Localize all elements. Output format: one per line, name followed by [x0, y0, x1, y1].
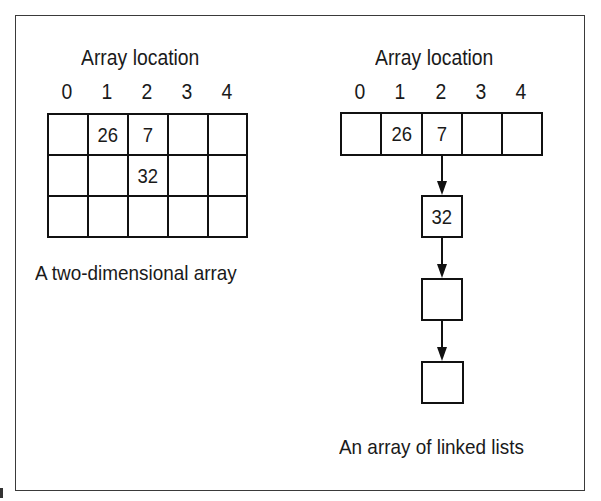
array-cell [461, 112, 503, 156]
grid-cell [47, 154, 89, 197]
right-caption: An array of linked lists [339, 435, 524, 459]
grid-cell [87, 154, 129, 197]
link-line [441, 237, 443, 266]
arrow-down-icon [437, 181, 447, 195]
left-caption: A two-dimensional array [35, 261, 237, 285]
left-index: 2 [129, 79, 164, 105]
grid-cell [87, 195, 129, 238]
left-index: 0 [49, 79, 84, 105]
edge-artifact [0, 488, 3, 498]
grid-cell [167, 195, 209, 238]
grid-cell [167, 154, 209, 197]
grid-cell [167, 113, 209, 156]
array-cell [340, 112, 382, 156]
left-index: 1 [89, 79, 124, 105]
link-line [441, 320, 443, 349]
right-title: Array location [375, 45, 493, 71]
left-index: 4 [209, 79, 244, 105]
right-index: 0 [342, 79, 377, 105]
grid-cell [207, 113, 248, 156]
right-index: 3 [463, 79, 498, 105]
grid-cell [207, 154, 248, 197]
array-cell: 26 [380, 112, 423, 156]
right-index: 1 [382, 79, 417, 105]
left-title: Array location [81, 45, 199, 71]
grid-cell [127, 195, 169, 238]
grid-cell [207, 195, 248, 238]
grid-cell: 7 [127, 113, 169, 156]
arrow-down-icon [437, 264, 447, 278]
grid-cell: 32 [127, 154, 169, 197]
linked-node [421, 361, 464, 404]
grid-cell [47, 113, 89, 156]
right-index: 2 [423, 79, 458, 105]
linked-node [421, 278, 463, 321]
arrow-down-icon [437, 347, 447, 361]
grid-cell [47, 195, 89, 238]
left-index: 3 [169, 79, 204, 105]
right-index: 4 [503, 79, 538, 105]
grid-cell: 26 [87, 113, 129, 156]
link-line [441, 155, 443, 183]
array-cell: 7 [421, 112, 463, 156]
array-cell [501, 112, 543, 156]
linked-node: 32 [421, 195, 463, 238]
